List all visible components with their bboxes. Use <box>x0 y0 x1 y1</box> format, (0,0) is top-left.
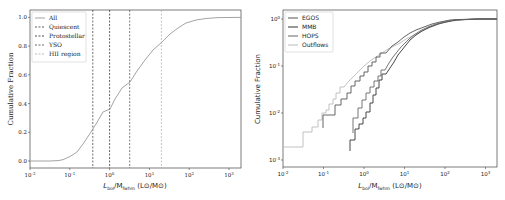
right-yticks: 10-3 10-2 10-1 100 <box>269 15 283 164</box>
chart-canvas: 0.0 0.2 0.4 0.6 0.8 1.0 10-2 10-1 100 10… <box>0 0 505 200</box>
legend-item-egos: EGOS <box>302 14 319 21</box>
left-ytick-label: 0.2 <box>18 129 27 135</box>
right-xtick-label: 102 <box>440 170 450 178</box>
right-xtick-label: 101 <box>400 170 410 178</box>
left-ytick-label: 0.8 <box>18 43 27 49</box>
right-ytick-label: 10-2 <box>269 109 280 117</box>
right-ytick-label: 10-3 <box>269 156 280 164</box>
left-ytick-label: 0.0 <box>18 158 27 164</box>
legend-item-yso: YSO <box>48 41 62 48</box>
right-y-axis-label: Cumulative Fraction <box>254 54 262 124</box>
right-ytick-label: 10-1 <box>269 62 280 70</box>
left-xtick-label: 101 <box>145 171 155 179</box>
legend-item-hops: HOPS <box>302 32 319 39</box>
right-xtick-label: 100 <box>359 170 369 178</box>
left-xtick-label: 10-2 <box>25 171 36 179</box>
left-xtick-label: 102 <box>184 171 194 179</box>
legend-item-outflows: Outflows <box>302 41 328 48</box>
legend-item-all: All <box>48 14 57 21</box>
right-x-axis-label: Lbol/Mfwhm (L⊙/M⊙) <box>358 182 422 191</box>
figure: 0.0 0.2 0.4 0.6 0.8 1.0 10-2 10-1 100 10… <box>0 0 505 200</box>
right-xtick-label: 10-1 <box>318 170 329 178</box>
right-panel: 10-3 10-2 10-1 100 10-2 10-1 100 101 102… <box>254 10 497 191</box>
legend-item-hii-region: HII region <box>49 50 81 58</box>
left-x-axis-label: Lbol/Mfwhm (L⊙/M⊙) <box>103 182 167 191</box>
left-ytick-label: 1.0 <box>18 14 27 20</box>
left-xtick-label: 10-1 <box>64 171 75 179</box>
left-xticks: 10-2 10-1 100 101 102 103 <box>25 168 235 178</box>
left-xtick-label: 103 <box>224 171 234 179</box>
left-y-axis-label: Cumulative Fraction <box>7 52 15 125</box>
legend-item-quiescent: Quiescent <box>49 23 80 30</box>
left-legend: All Quiescent Protostellar YSO HII regio… <box>32 12 86 62</box>
legend-item-mmb: MMB <box>302 23 316 30</box>
right-xtick-label: 103 <box>481 170 491 178</box>
left-panel: 0.0 0.2 0.4 0.6 0.8 1.0 10-2 10-1 100 10… <box>7 10 241 191</box>
left-xtick-label: 100 <box>105 171 115 179</box>
legend-item-protostellar: Protostellar <box>49 32 85 39</box>
left-ytick-label: 0.6 <box>18 72 27 78</box>
right-xticks: 10-2 10-1 100 101 102 103 <box>278 167 491 177</box>
left-ytick-label: 0.4 <box>18 101 27 107</box>
right-ytick-label: 100 <box>270 15 280 23</box>
right-xtick-label: 10-2 <box>278 170 289 178</box>
right-legend: EGOS MMB HOPS Outflows <box>285 12 333 52</box>
left-yticks: 0.0 0.2 0.4 0.6 0.8 1.0 <box>18 14 30 164</box>
